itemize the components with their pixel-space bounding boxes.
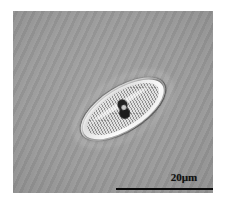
scale-bar-line: [116, 188, 213, 190]
micrograph-figure: 20µm: [0, 0, 226, 201]
micrograph-image: 20µm: [13, 11, 213, 193]
scale-bar-label: 20µm: [148, 171, 213, 183]
scale-bar: 20µm: [116, 171, 213, 190]
